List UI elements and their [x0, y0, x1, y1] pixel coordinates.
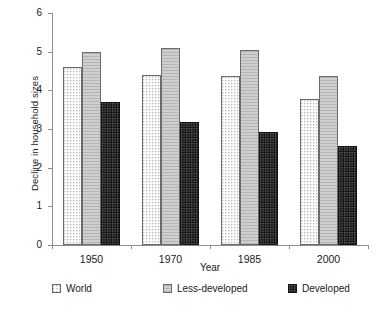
x-tick: [52, 245, 53, 249]
x-axis-title: Year: [52, 262, 368, 273]
bar-developed-1985: [259, 132, 278, 245]
y-tick: 6: [48, 13, 52, 14]
x-tick: [210, 245, 211, 249]
x-tick: [131, 245, 132, 249]
legend-item-world[interactable]: World: [52, 283, 92, 294]
legend-swatch-icon: [163, 284, 172, 293]
y-tick: 1: [48, 206, 52, 207]
x-tick: [289, 245, 290, 249]
y-tick-label: 3: [36, 122, 42, 135]
bar-world-1985: [221, 76, 240, 245]
y-axis-line: [52, 13, 53, 246]
x-tick: [368, 245, 369, 249]
legend-label: World: [66, 283, 92, 294]
page-bottom-margin: [0, 305, 379, 312]
y-tick: 4: [48, 90, 52, 91]
y-tick-label: 6: [36, 6, 42, 19]
y-tick-label: 2: [36, 161, 42, 174]
plot-area: 0123456 1950197019852000: [52, 13, 368, 245]
y-tick: 2: [48, 168, 52, 169]
y-tick: 5: [48, 52, 52, 53]
bar-less-developed-1970: [161, 48, 180, 245]
y-tick: 3: [48, 129, 52, 130]
bar-less-developed-1985: [240, 50, 259, 245]
bar-developed-1970: [180, 122, 199, 245]
y-tick-label: 1: [36, 199, 42, 212]
bar-world-1970: [142, 75, 161, 245]
bar-less-developed-2000: [319, 76, 338, 245]
legend-label: Developed: [302, 283, 350, 294]
y-tick-label: 4: [36, 83, 42, 96]
legend-item-developed[interactable]: Developed: [288, 283, 350, 294]
legend-swatch-icon: [52, 284, 61, 293]
legend-label: Less-developed: [177, 283, 248, 294]
bar-developed-2000: [338, 146, 357, 245]
y-tick-label: 0: [36, 238, 42, 251]
bar-chart: Decline in household sizes 0123456 19501…: [0, 0, 379, 312]
legend-item-less-developed[interactable]: Less-developed: [163, 283, 248, 294]
bar-developed-1950: [101, 102, 120, 245]
legend-swatch-icon: [288, 284, 297, 293]
bar-less-developed-1950: [82, 52, 101, 245]
chart-legend: WorldLess-developedDeveloped: [52, 283, 368, 301]
bar-world-1950: [63, 67, 82, 245]
y-tick-label: 5: [36, 45, 42, 58]
bar-world-2000: [300, 99, 319, 245]
